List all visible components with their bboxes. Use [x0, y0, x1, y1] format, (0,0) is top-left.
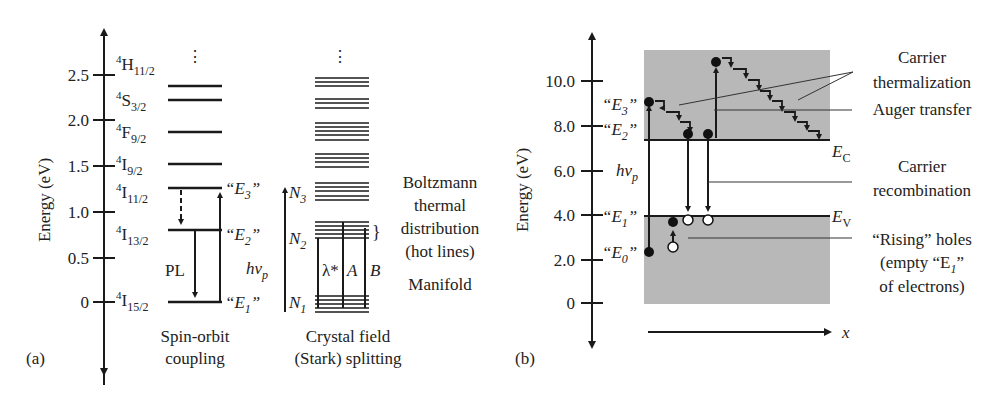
conduction-band	[644, 50, 830, 140]
stark-caption: (Stark) splitting	[294, 349, 402, 368]
ellipsis-dots: ⋮	[187, 48, 203, 65]
svg-text:4I9/2: 4I9/2	[116, 153, 143, 178]
brace-icon: }	[372, 222, 381, 242]
panel-a: Energy (eV) 2.5 2.0 1.5 1.0 0.5 0 4H11/2…	[26, 32, 480, 385]
tick-label: 6.0	[554, 162, 575, 181]
e0-label: “E0”	[602, 243, 637, 266]
boltzmann-label: distribution	[401, 219, 480, 238]
boltzmann-label: (hot lines)	[405, 242, 474, 261]
hv-label: hνp	[616, 161, 638, 184]
n3-label: N3	[288, 183, 306, 206]
carrier-recombination-label: Carrier	[898, 157, 946, 176]
rising-holes-label: “Rising” holes	[872, 230, 972, 249]
svg-text:4I11/2: 4I11/2	[116, 181, 148, 206]
svg-text:4I13/2: 4I13/2	[116, 223, 149, 248]
carrier-thermalization-label: thermalization	[873, 73, 972, 92]
tick-label: 4.0	[554, 206, 575, 225]
boltzmann-label: Boltzmann	[403, 173, 478, 192]
e3-label: “E3”	[602, 95, 637, 118]
rising-holes-label: (empty “E1”	[880, 253, 964, 276]
e1-label: “E1”	[225, 293, 260, 316]
energy-level-diagram: Energy (eV) 2.5 2.0 1.5 1.0 0.5 0 4H11/2…	[0, 0, 1008, 396]
ec-label: EC	[831, 142, 850, 165]
svg-text:4I15/2: 4I15/2	[116, 289, 149, 314]
spin-orbit-caption: coupling	[165, 349, 225, 368]
level-label: 4I9/2	[116, 153, 143, 178]
panel-b: Energy (eV) 10.0 8.0 6.0 4.0 2.0 0 “E3” …	[513, 36, 972, 368]
panel-a-label: (a)	[26, 349, 45, 368]
ev-label: EV	[831, 207, 851, 230]
tick-label: 1.0	[68, 203, 89, 222]
tick-label: 0	[81, 293, 90, 312]
spin-orbit-caption: Spin-orbit	[161, 327, 230, 346]
e1-label: “E1”	[602, 207, 637, 230]
y-axis-label: Energy (eV)	[35, 158, 54, 242]
tick-label: 10.0	[545, 72, 575, 91]
tick-label: 8.0	[554, 117, 575, 136]
e3-label: “E3”	[225, 179, 260, 202]
b-label: B	[370, 261, 381, 280]
svg-text:4S3/2: 4S3/2	[116, 89, 146, 114]
tick-label: 2.5	[68, 66, 89, 85]
svg-text:4F9/2: 4F9/2	[116, 121, 146, 146]
carrier-thermalization-label: Carrier	[898, 48, 946, 67]
e2-label: “E2”	[602, 120, 637, 143]
level-label: 4F9/2	[116, 121, 146, 146]
carrier-recombination-label: recombination	[873, 181, 972, 200]
manifold-label: Manifold	[408, 275, 472, 294]
tick-label: 2.0	[68, 111, 89, 130]
svg-text:4H11/2: 4H11/2	[116, 53, 155, 78]
stark-caption: Crystal field	[306, 327, 391, 346]
tick-label: 0	[567, 294, 576, 313]
level-label: 4S3/2	[116, 89, 146, 114]
pl-label: PL	[165, 261, 185, 280]
tick-label: 2.0	[554, 251, 575, 270]
x-axis-label: x	[841, 323, 850, 342]
e2-label: “E2”	[225, 225, 260, 248]
boltzmann-label: thermal	[414, 196, 466, 215]
hv-label: hνp	[246, 259, 268, 282]
tick-label: 0.5	[68, 249, 89, 268]
level-label: 4I15/2	[116, 289, 149, 314]
tick-label: 1.5	[68, 157, 89, 176]
level-label: 4I13/2	[116, 223, 149, 248]
auger-transfer-label: Auger transfer	[873, 100, 972, 119]
valence-band	[644, 216, 830, 304]
panel-b-label: (b)	[515, 349, 535, 368]
y-axis-label: Energy (eV)	[513, 148, 532, 232]
n1-label: N1	[288, 293, 306, 316]
level-label: 4H11/2	[116, 53, 155, 78]
lambda-label: λ*	[322, 261, 339, 280]
rising-holes-label: of electrons)	[879, 277, 964, 296]
ellipsis-dots: ⋮	[332, 48, 348, 65]
level-label: 4I11/2	[116, 181, 148, 206]
a-label: A	[346, 261, 358, 280]
n2-label: N2	[288, 229, 306, 252]
